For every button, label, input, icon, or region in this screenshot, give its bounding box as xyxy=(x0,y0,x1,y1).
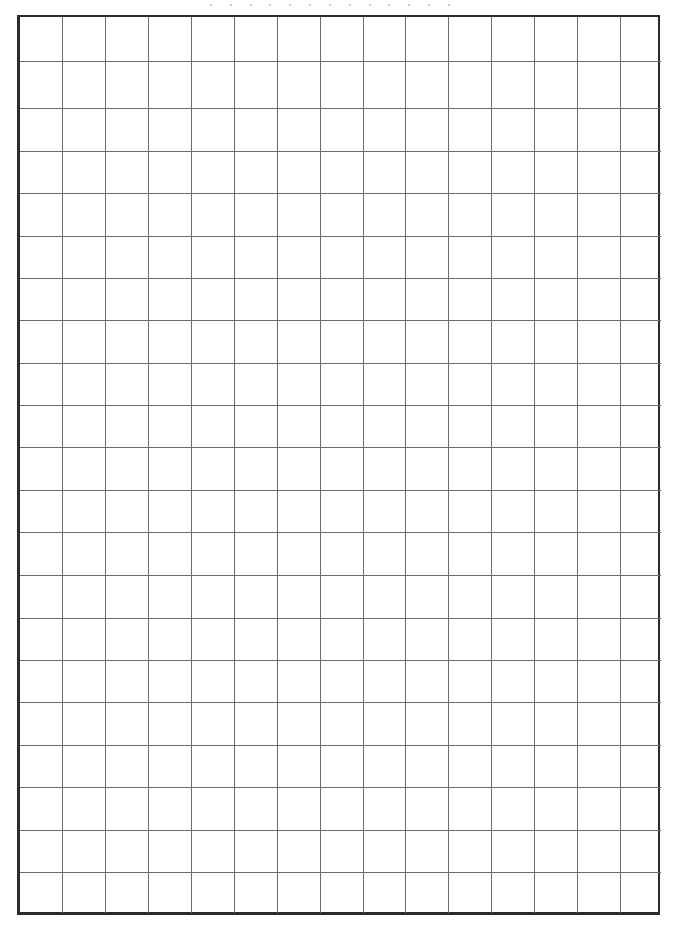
grid-cell xyxy=(106,746,149,788)
grid-cell xyxy=(492,17,535,62)
grid-cell xyxy=(235,406,278,448)
grid-cell xyxy=(621,576,661,619)
grid-cell xyxy=(63,109,106,152)
grid-cell xyxy=(492,533,535,576)
grid-cell xyxy=(235,746,278,788)
grid-cell xyxy=(321,661,364,703)
grid-cell xyxy=(578,788,621,831)
grid-cell xyxy=(149,152,192,194)
grid-cell xyxy=(278,831,321,873)
grid-cell xyxy=(535,237,578,279)
grid-cell xyxy=(578,746,621,788)
grid-cell xyxy=(63,533,106,576)
grid-cell xyxy=(578,619,621,661)
grid-cell xyxy=(63,448,106,491)
grid-cell xyxy=(406,873,449,913)
grid-cell xyxy=(364,831,406,873)
grid-cell xyxy=(149,364,192,406)
grid-cell xyxy=(192,109,235,152)
grid-cell xyxy=(578,194,621,237)
grid-cell xyxy=(106,152,149,194)
grid-cell xyxy=(364,109,406,152)
grid-cell xyxy=(106,279,149,321)
grid-cell xyxy=(449,194,492,237)
grid-cell xyxy=(278,321,321,364)
grid-cell xyxy=(535,491,578,533)
grid-cell xyxy=(278,109,321,152)
grid-cell xyxy=(578,831,621,873)
grid-cell xyxy=(235,194,278,237)
grid-cell xyxy=(578,703,621,746)
grid-cell xyxy=(364,788,406,831)
grid-cell xyxy=(235,533,278,576)
grid-cell xyxy=(406,746,449,788)
grid-cell xyxy=(535,576,578,619)
grid-cell xyxy=(278,703,321,746)
grid-cell xyxy=(321,152,364,194)
grid-cell xyxy=(149,194,192,237)
grid-cell xyxy=(406,576,449,619)
grid-cell xyxy=(278,279,321,321)
grid-cell xyxy=(278,491,321,533)
grid-cell xyxy=(492,406,535,448)
grid-cell xyxy=(578,109,621,152)
grid-cell xyxy=(20,279,63,321)
grid-cell xyxy=(149,17,192,62)
grid-cell xyxy=(535,109,578,152)
grid-cell xyxy=(364,873,406,913)
grid-cell xyxy=(364,661,406,703)
grid-cell xyxy=(192,831,235,873)
grid-cell xyxy=(321,491,364,533)
grid-cell xyxy=(621,364,661,406)
grid-cell xyxy=(63,62,106,109)
grid-cell xyxy=(235,448,278,491)
grid-cell xyxy=(106,194,149,237)
grid-cell xyxy=(621,109,661,152)
grid-cell xyxy=(20,788,63,831)
grid-cell xyxy=(321,831,364,873)
grid-cell xyxy=(406,237,449,279)
grid-cell xyxy=(364,406,406,448)
grid-cell xyxy=(278,17,321,62)
grid-cell xyxy=(192,194,235,237)
grid-cell xyxy=(492,321,535,364)
grid-cell xyxy=(63,279,106,321)
grid-cell xyxy=(192,491,235,533)
grid-cell xyxy=(192,703,235,746)
grid-cell xyxy=(449,873,492,913)
grid-cell xyxy=(449,831,492,873)
grid-cell xyxy=(406,364,449,406)
grid-cell xyxy=(149,831,192,873)
grid-cell xyxy=(492,491,535,533)
grid-cell xyxy=(492,873,535,913)
grid-cell xyxy=(235,788,278,831)
grid-cell xyxy=(149,109,192,152)
grid-cell xyxy=(278,873,321,913)
grid-cell xyxy=(20,17,63,62)
grid-cell xyxy=(235,152,278,194)
grid-cell xyxy=(621,406,661,448)
grid-cell xyxy=(149,661,192,703)
grid-cell xyxy=(192,321,235,364)
grid-cell xyxy=(235,661,278,703)
grid-cell xyxy=(621,703,661,746)
grid-cell xyxy=(364,703,406,746)
grid-cell xyxy=(621,873,661,913)
grid-cell xyxy=(364,746,406,788)
grid-cell xyxy=(449,619,492,661)
grid-cell xyxy=(321,364,364,406)
grid-cell xyxy=(106,364,149,406)
grid-cell xyxy=(406,788,449,831)
grid-cell xyxy=(149,703,192,746)
grid-cell xyxy=(20,661,63,703)
grid-cell xyxy=(449,152,492,194)
grid-cell xyxy=(492,109,535,152)
grid-cell xyxy=(149,576,192,619)
grid-cell xyxy=(621,746,661,788)
grid-cell xyxy=(20,576,63,619)
grid-cell xyxy=(20,703,63,746)
grid-cell xyxy=(621,661,661,703)
grid-cell xyxy=(621,619,661,661)
grid-cell xyxy=(578,873,621,913)
grid-cell xyxy=(235,321,278,364)
